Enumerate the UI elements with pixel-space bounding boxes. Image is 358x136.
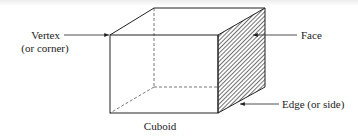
vertex-label: Vertex bbox=[31, 29, 60, 41]
edge-label: Edge (or side) bbox=[282, 98, 345, 111]
cuboid-diagram: Vertex (or corner) Face Edge (or side) C… bbox=[0, 0, 358, 136]
cuboid-caption: Cuboid bbox=[144, 120, 177, 132]
vertex-sublabel: (or corner) bbox=[21, 42, 69, 55]
face-label: Face bbox=[301, 29, 322, 41]
shaded-face bbox=[218, 8, 265, 113]
